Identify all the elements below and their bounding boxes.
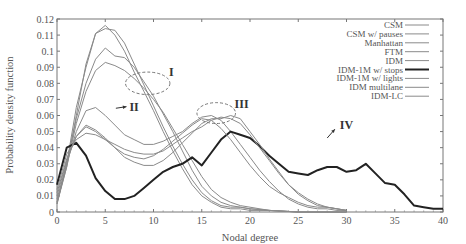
y-tick-label: 0.12 [37, 14, 55, 25]
x-tick-label: 0 [55, 215, 60, 226]
legend: CSMCSM w/ pausesManhattanFTMIDMIDM-1M w/… [336, 20, 429, 101]
chart: 051015202530354000.010.020.030.040.050.0… [0, 0, 466, 244]
x-tick-label: 25 [293, 215, 303, 226]
x-tick-label: 5 [103, 215, 108, 226]
y-tick-label: 0.07 [37, 94, 55, 105]
x-tick-label: 35 [390, 215, 400, 226]
y-tick-label: 0.03 [37, 158, 55, 169]
annotation-label: II [129, 100, 139, 114]
y-tick-label: 0.02 [37, 174, 55, 185]
y-tick-label: 0 [49, 207, 54, 218]
annotation-ellipse [197, 103, 236, 124]
legend-label: IDM-LC [371, 91, 403, 101]
annotation-label: I [169, 65, 174, 79]
y-tick-label: 0.01 [37, 190, 55, 201]
annotation-label: III [235, 97, 249, 111]
x-tick-label: 20 [245, 215, 255, 226]
x-tick-label: 30 [342, 215, 352, 226]
y-axis-label: Probability density function [4, 56, 15, 174]
series-line-idm-1m-w-stops [57, 132, 443, 209]
y-tick-label: 0.09 [37, 62, 55, 73]
y-tick-label: 0.05 [37, 126, 55, 137]
y-tick-label: 0.11 [37, 30, 54, 41]
y-tick-label: 0.06 [37, 110, 55, 121]
y-tick-label: 0.08 [37, 78, 55, 89]
y-tick-label: 0.04 [37, 142, 55, 153]
annotation-label: IV [340, 118, 354, 132]
series-line-manhattan [57, 48, 347, 212]
x-axis-label: Nodal degree [222, 232, 279, 243]
y-tick-label: 0.1 [42, 46, 55, 57]
annotation-ellipse [126, 72, 170, 95]
x-tick-label: 10 [149, 215, 159, 226]
x-tick-label: 15 [197, 215, 207, 226]
x-tick-label: 40 [438, 215, 448, 226]
series-line-idm [57, 108, 347, 211]
